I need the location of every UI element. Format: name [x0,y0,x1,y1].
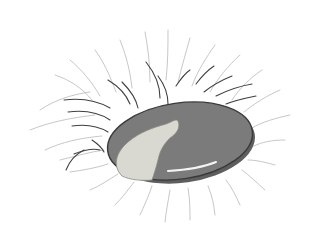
stone-in-hair-illustration [0,0,324,249]
